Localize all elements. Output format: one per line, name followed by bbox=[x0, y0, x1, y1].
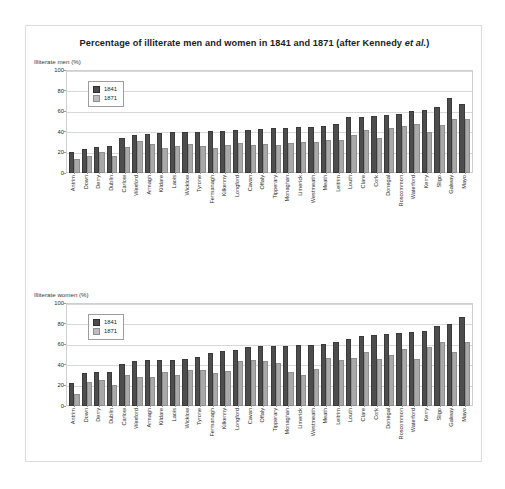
bar-1871 bbox=[87, 382, 92, 406]
x-axis-tick-cell: Meath bbox=[320, 407, 333, 469]
bar-group bbox=[257, 303, 270, 406]
bar-group bbox=[181, 303, 194, 406]
x-tick-mark bbox=[137, 404, 138, 407]
women-x-axis-labels: AntrimDownDerryDublinCarlowWexfordArmagh… bbox=[66, 407, 473, 469]
y-tick-mark-60 bbox=[63, 344, 66, 345]
y-tick-label-40: 40 bbox=[34, 129, 64, 135]
x-axis-tick-cell: Laois bbox=[169, 174, 182, 236]
y-tick-mark-0 bbox=[63, 406, 66, 407]
bar-group bbox=[408, 70, 421, 173]
x-tick-mark bbox=[213, 171, 214, 174]
chart-illiterate-women: AntrimDownDerryDublinCarlowWexfordArmagh… bbox=[26, 303, 483, 468]
women-axis-caption: Illiterate women (%) bbox=[34, 291, 89, 298]
bar-group bbox=[320, 303, 333, 406]
x-tick-mark bbox=[402, 171, 403, 174]
x-axis-label: Monaghan bbox=[286, 408, 292, 434]
x-axis-tick-cell: Kerry bbox=[421, 407, 434, 469]
bar-group bbox=[383, 70, 396, 173]
x-axis-label: Kilkenny bbox=[223, 408, 229, 429]
x-axis-label: Limerick bbox=[298, 175, 304, 196]
x-tick-mark bbox=[125, 171, 126, 174]
x-axis-tick-cell: Longford bbox=[232, 174, 245, 236]
x-tick-mark bbox=[414, 171, 415, 174]
x-axis-label: Galway bbox=[449, 175, 455, 194]
x-tick-mark bbox=[200, 404, 201, 407]
bar-1871 bbox=[276, 145, 281, 173]
bar-1871 bbox=[465, 119, 470, 173]
x-axis-label: Derry bbox=[97, 408, 103, 422]
bar-1871 bbox=[427, 132, 432, 173]
x-tick-mark bbox=[427, 404, 428, 407]
x-tick-mark bbox=[125, 404, 126, 407]
women-bar-group bbox=[66, 303, 473, 406]
bar-1871 bbox=[213, 148, 218, 173]
bar-group bbox=[207, 70, 220, 173]
x-axis-tick-cell: Galway bbox=[446, 407, 459, 469]
x-tick-mark bbox=[452, 171, 453, 174]
x-axis-tick-cell: Monaghan bbox=[282, 407, 295, 469]
y-tick-label-80: 80 bbox=[34, 321, 64, 327]
x-axis-label: Louth bbox=[349, 175, 355, 189]
bar-group bbox=[358, 303, 371, 406]
bar-group bbox=[244, 303, 257, 406]
x-axis-tick-cell: Down bbox=[81, 174, 94, 236]
y-tick-label-60: 60 bbox=[34, 341, 64, 347]
x-tick-mark bbox=[225, 171, 226, 174]
bar-1871 bbox=[452, 352, 457, 406]
bar-group bbox=[433, 70, 446, 173]
figure-panel: Percentage of illiterate men and women i… bbox=[25, 25, 482, 462]
bar-1871 bbox=[377, 359, 382, 406]
x-tick-mark bbox=[87, 171, 88, 174]
x-axis-tick-cell: Kerry bbox=[421, 174, 434, 236]
x-axis-tick-cell: Carlow bbox=[118, 174, 131, 236]
bar-group bbox=[282, 70, 295, 173]
y-tick-mark-20 bbox=[63, 152, 66, 153]
x-tick-mark bbox=[351, 171, 352, 174]
bar-group bbox=[370, 70, 383, 173]
bar-1871 bbox=[414, 359, 419, 406]
x-axis-tick-cell: Kildare bbox=[156, 407, 169, 469]
x-axis-tick-cell: Kilkenny bbox=[219, 174, 232, 236]
chart-illiterate-men: AntrimDownDerryDublinCarlowWexfordArmagh… bbox=[26, 70, 483, 235]
x-axis-label: Dublin bbox=[109, 175, 115, 191]
bar-group bbox=[370, 303, 383, 406]
x-tick-mark bbox=[389, 404, 390, 407]
x-axis-tick-cell: Waterford bbox=[408, 407, 421, 469]
bar-1871 bbox=[188, 144, 193, 173]
x-axis-tick-cell: Roscommon bbox=[395, 407, 408, 469]
y-tick-label-40: 40 bbox=[34, 362, 64, 368]
x-axis-label: Kildare bbox=[160, 175, 166, 192]
bar-group bbox=[194, 70, 207, 173]
men-axis-caption: Illiterate men (%) bbox=[34, 58, 81, 65]
x-tick-mark bbox=[301, 404, 302, 407]
x-tick-mark bbox=[389, 171, 390, 174]
x-axis-label: Limerick bbox=[298, 408, 304, 429]
x-tick-mark bbox=[251, 404, 252, 407]
x-axis-tick-cell: Louth bbox=[345, 174, 358, 236]
bar-1871 bbox=[301, 375, 306, 406]
bar-group bbox=[433, 303, 446, 406]
bar-1871 bbox=[301, 142, 306, 173]
bar-group bbox=[295, 303, 308, 406]
y-tick-label-0: 0 bbox=[34, 170, 64, 176]
x-axis-label: Down bbox=[84, 408, 90, 422]
x-axis-tick-cell: Wexford bbox=[131, 174, 144, 236]
x-tick-mark bbox=[175, 404, 176, 407]
bar-group bbox=[156, 303, 169, 406]
x-tick-mark bbox=[414, 404, 415, 407]
x-axis-label: Kerry bbox=[424, 408, 430, 421]
bar-group bbox=[307, 303, 320, 406]
bar-group bbox=[282, 303, 295, 406]
x-axis-tick-cell: Monaghan bbox=[282, 174, 295, 236]
bar-group bbox=[307, 70, 320, 173]
y-tick-mark-100 bbox=[63, 70, 66, 71]
x-axis-tick-cell: Donegal bbox=[383, 174, 396, 236]
x-tick-mark bbox=[440, 171, 441, 174]
x-axis-label: Kerry bbox=[424, 175, 430, 188]
x-axis-label: Wexford bbox=[134, 175, 140, 196]
bar-1871 bbox=[213, 373, 218, 406]
x-tick-mark bbox=[213, 404, 214, 407]
x-tick-mark bbox=[465, 404, 466, 407]
y-tick-mark-40 bbox=[63, 364, 66, 365]
x-axis-label: Armagh bbox=[147, 175, 153, 195]
